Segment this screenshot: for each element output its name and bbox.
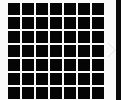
grid-cell[interactable] <box>64 31 76 43</box>
grid-cell[interactable] <box>78 73 90 85</box>
grid-cell[interactable] <box>92 3 104 15</box>
grid-cell[interactable] <box>36 73 48 85</box>
thumbnail-grid <box>8 3 104 99</box>
grid-cell[interactable] <box>64 45 76 57</box>
grid-cell[interactable] <box>36 59 48 71</box>
grid-cell[interactable] <box>36 87 48 99</box>
grid-cell[interactable] <box>50 3 62 15</box>
grid-cell[interactable] <box>64 17 76 29</box>
grid-cell[interactable] <box>36 45 48 57</box>
grid-cell[interactable] <box>50 59 62 71</box>
grid-cell[interactable] <box>50 31 62 43</box>
grid-cell[interactable] <box>36 3 48 15</box>
grid-cell[interactable] <box>64 73 76 85</box>
grid-cell[interactable] <box>92 31 104 43</box>
grid-cell[interactable] <box>36 17 48 29</box>
grid-cell[interactable] <box>78 59 90 71</box>
grid-cell[interactable] <box>50 17 62 29</box>
grid-cell[interactable] <box>78 3 90 15</box>
grid-cell[interactable] <box>8 3 20 15</box>
grid-cell[interactable] <box>8 31 20 43</box>
grid-cell[interactable] <box>22 3 34 15</box>
grid-cell[interactable] <box>22 87 34 99</box>
grid-cell[interactable] <box>8 45 20 57</box>
grid-cell[interactable] <box>22 45 34 57</box>
grid-cell[interactable] <box>92 87 104 99</box>
grid-cell[interactable] <box>22 59 34 71</box>
grid-cell[interactable] <box>78 31 90 43</box>
grid-cell[interactable] <box>8 17 20 29</box>
grid-cell[interactable] <box>8 59 20 71</box>
grid-cell[interactable] <box>78 17 90 29</box>
grid-cell[interactable] <box>22 31 34 43</box>
grid-cell[interactable] <box>92 45 104 57</box>
grid-cell[interactable] <box>64 87 76 99</box>
grid-cell[interactable] <box>78 45 90 57</box>
grid-cell[interactable] <box>50 73 62 85</box>
grid-cell[interactable] <box>8 87 20 99</box>
grid-cell[interactable] <box>64 59 76 71</box>
grid-cell[interactable] <box>36 31 48 43</box>
grid-cell[interactable] <box>22 17 34 29</box>
grid-cell[interactable] <box>50 87 62 99</box>
grid-cell[interactable] <box>64 3 76 15</box>
chevron-right-icon[interactable] <box>107 42 117 58</box>
grid-cell[interactable] <box>92 73 104 85</box>
grid-cell[interactable] <box>50 45 62 57</box>
grid-cell[interactable] <box>78 87 90 99</box>
grid-cell[interactable] <box>92 59 104 71</box>
grid-cell[interactable] <box>8 73 20 85</box>
grid-cell[interactable] <box>22 73 34 85</box>
grid-cell[interactable] <box>92 17 104 29</box>
